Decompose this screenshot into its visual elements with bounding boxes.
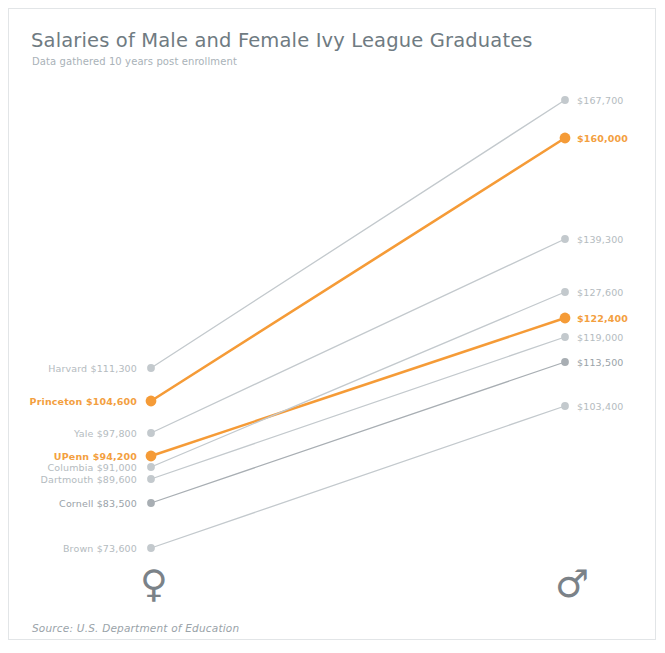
series-line [151, 239, 565, 433]
right-point-label-brown: $103,400 [577, 401, 624, 412]
series-line [151, 318, 565, 456]
series-line [151, 138, 565, 401]
series-data-point [561, 96, 569, 104]
series-data-point [561, 235, 569, 243]
left-point-label-upenn: UPenn $94,200 [54, 451, 137, 462]
series-data-point [146, 451, 157, 462]
left-point-label-brown: Brown $73,600 [63, 543, 137, 554]
series-data-point [561, 358, 569, 366]
series-data-point [561, 333, 569, 341]
left-point-label-dartmouth: Dartmouth $89,600 [41, 474, 137, 485]
series-data-point [147, 429, 155, 437]
slope-chart-screenshot: Salaries of Male and Female Ivy League G… [0, 0, 665, 653]
right-point-label-columbia: $127,600 [577, 287, 624, 298]
left-point-label-columbia: Columbia $91,000 [47, 462, 137, 473]
series-data-point [147, 544, 155, 552]
series-line [151, 362, 565, 503]
series-data-point [560, 133, 571, 144]
series-lines-layer [151, 100, 565, 548]
page-title: Salaries of Male and Female Ivy League G… [31, 29, 533, 52]
right-point-label-yale: $139,300 [577, 234, 624, 245]
left-point-label-princeton: Princeton $104,600 [30, 396, 137, 407]
right-point-label-dartmouth: $119,000 [577, 332, 624, 343]
series-data-point [146, 396, 157, 407]
series-line [151, 100, 565, 368]
chart-card: Salaries of Male and Female Ivy League G… [8, 8, 656, 640]
series-data-point [147, 364, 155, 372]
series-line [151, 406, 565, 548]
series-data-point [147, 475, 155, 483]
series-data-point [147, 463, 155, 471]
right-point-label-upenn: $122,400 [577, 313, 628, 324]
chart-source-note: Source: U.S. Department of Education [32, 622, 239, 634]
left-point-label-yale: Yale $97,800 [74, 428, 137, 439]
series-data-point [147, 499, 155, 507]
series-line [151, 292, 565, 467]
series-data-point [561, 402, 569, 410]
right-point-label-cornell: $113,500 [577, 357, 624, 368]
series-data-point [560, 313, 571, 324]
series-data-point [561, 288, 569, 296]
male-symbol-icon: ♂ [555, 565, 589, 603]
left-point-label-harvard: Harvard $111,300 [48, 363, 137, 374]
female-symbol-icon: ♀ [140, 565, 168, 603]
right-point-label-princeton: $160,000 [577, 133, 628, 144]
chart-subtitle: Data gathered 10 years post enrollment [32, 56, 237, 67]
series-dots-layer [146, 96, 571, 552]
left-point-label-cornell: Cornell $83,500 [59, 498, 137, 509]
right-point-label-harvard: $167,700 [577, 95, 624, 106]
series-line [151, 337, 565, 479]
